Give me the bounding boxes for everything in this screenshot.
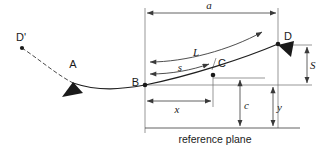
point-label-d-prime: D' bbox=[16, 31, 26, 43]
dimension-x-label: x bbox=[174, 103, 180, 115]
dimension-y-label: y bbox=[276, 101, 282, 113]
point-dot-d-prime bbox=[20, 46, 24, 50]
dimension-s: s bbox=[150, 61, 209, 74]
dimension-S: S bbox=[307, 47, 316, 83]
dimension-s-label: s bbox=[178, 61, 182, 73]
dimension-a: a bbox=[147, 0, 276, 13]
dimension-L: L bbox=[150, 32, 262, 62]
point-label-a: A bbox=[69, 58, 77, 70]
technical-diagram: a L s x S c y bbox=[0, 0, 331, 156]
dimension-L-label: L bbox=[192, 46, 199, 58]
extension-lines bbox=[145, 8, 312, 133]
c-label-tick bbox=[212, 58, 216, 70]
point-label-d: D bbox=[284, 30, 292, 42]
point-dot-d bbox=[276, 42, 281, 47]
point-label-b: B bbox=[132, 76, 139, 88]
point-dot-b bbox=[143, 83, 148, 88]
dimension-S-label: S bbox=[310, 59, 316, 71]
dimension-x: x bbox=[147, 101, 211, 115]
dimension-c-label: c bbox=[244, 99, 249, 111]
cable-curve-dashed-segment bbox=[22, 48, 73, 83]
support-triangle-a bbox=[62, 82, 83, 97]
reference-plane-caption: reference plane bbox=[179, 133, 252, 145]
point-label-c: C bbox=[218, 57, 226, 69]
dimension-y: y bbox=[273, 87, 282, 126]
cable-curve-solid-segment bbox=[73, 44, 278, 89]
dimension-L-arc bbox=[150, 32, 262, 62]
diagram-canvas: a L s x S c y bbox=[0, 0, 331, 156]
point-markers bbox=[20, 42, 280, 88]
support-triangle-d bbox=[278, 41, 294, 57]
dimension-c: c bbox=[240, 80, 249, 126]
dimension-a-label: a bbox=[206, 0, 212, 11]
point-labels: D' A B C D bbox=[16, 30, 292, 88]
point-dot-c bbox=[211, 73, 216, 78]
